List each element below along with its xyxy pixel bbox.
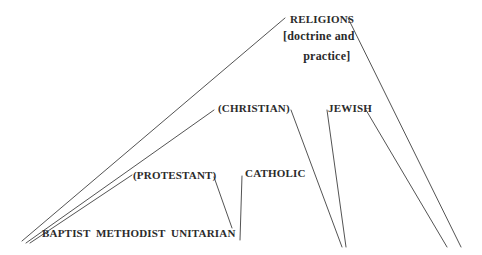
node-religions-gloss-line1: [doctrine and — [283, 30, 355, 43]
node-baptist: BAPTIST — [42, 228, 90, 240]
node-jewish-label: JEWISH — [328, 102, 372, 114]
node-catholic: CATHOLIC — [245, 168, 306, 180]
node-religions: RELIGIONS — [290, 14, 354, 26]
node-christian-label: (CHRISTIAN) — [218, 102, 290, 114]
node-unitarian: UNITARIAN — [171, 228, 236, 240]
edge-jewish-right — [366, 110, 447, 247]
node-methodist: METHODIST — [96, 228, 166, 240]
node-christian: (CHRISTIAN) — [218, 103, 290, 115]
edge-protestant-right — [214, 177, 232, 228]
edge-religions-right — [348, 18, 461, 247]
node-catholic-label: CATHOLIC — [245, 167, 306, 179]
node-methodist-label: METHODIST — [96, 227, 166, 239]
tree-edges-layer — [0, 0, 482, 255]
node-religions-label: RELIGIONS — [290, 13, 354, 25]
religions-tree-diagram: RELIGIONS [doctrine and practice] (CHRIS… — [0, 0, 482, 255]
node-religions-gloss-line2: practice] — [299, 50, 355, 63]
edge-catholic-down — [240, 176, 242, 240]
node-jewish: JEWISH — [328, 103, 372, 115]
edge-jewish-left — [327, 110, 346, 247]
node-religions-gloss: [doctrine and practice] — [283, 30, 355, 62]
edge-religions-left — [22, 18, 285, 241]
node-unitarian-label: UNITARIAN — [171, 227, 236, 239]
node-baptist-label: BAPTIST — [42, 227, 90, 239]
node-protestant: (PROTESTANT) — [133, 170, 216, 182]
node-protestant-label: (PROTESTANT) — [133, 169, 216, 181]
